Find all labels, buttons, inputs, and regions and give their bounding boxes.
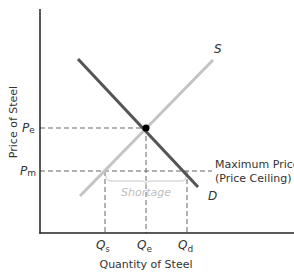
ceiling-label-line1: Maximum Price [215,158,294,171]
demand-curve [78,59,198,187]
qd-label: Qd [178,238,193,254]
x-axis-title: Quantity of Steel [99,258,192,271]
x-tick-labels: Qs Qe Qd [96,238,193,254]
qs-label: Qs [96,238,110,254]
ceiling-label-line2: (Price Ceiling) [215,172,291,185]
y-tick-labels: Pe Pm [20,121,36,178]
pe-label: Pe [22,121,35,135]
qe-label: Qe [137,238,152,254]
y-axis-title: Price of Steel [7,86,20,158]
supply-label: S [214,42,222,56]
equilibrium-point [143,125,150,132]
shortage-label: Shortage [121,186,171,199]
demand-label: D [208,189,217,203]
pm-label: Pm [20,164,36,178]
price-ceiling-chart: Shortage S D Pe Pm Qs Qe Qd Quantity of … [0,0,294,278]
